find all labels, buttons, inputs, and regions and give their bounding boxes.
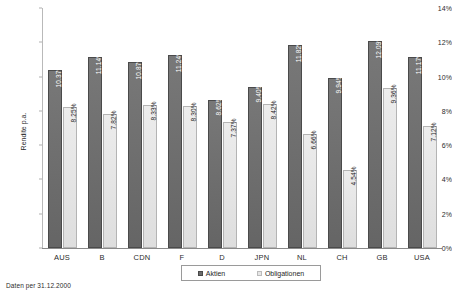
bar-value-label: 11.24% bbox=[175, 50, 182, 72]
bar-obligationen: 7.82% bbox=[103, 114, 117, 248]
legend-swatch-aktien-icon bbox=[198, 271, 203, 276]
x-axis-tick-label: CDN bbox=[122, 253, 162, 262]
bar-value-label: 7.82% bbox=[110, 110, 117, 129]
bar-group: 11.24%8.30% bbox=[168, 8, 197, 248]
bar-value-label: 10.37% bbox=[55, 65, 62, 88]
bar-value-label: 9.94% bbox=[335, 74, 342, 93]
bar-group: 10.87%8.33% bbox=[128, 8, 157, 248]
x-axis-tick-label: GB bbox=[362, 253, 402, 262]
x-axis-tick-label: CH bbox=[322, 253, 362, 262]
legend-label-obligationen: Obligationen bbox=[265, 270, 304, 277]
bar-group: 9.40%8.42% bbox=[248, 8, 277, 248]
y-axis-title: Rendite p.a. bbox=[20, 97, 27, 167]
bar-obligationen: 6.66% bbox=[303, 134, 317, 248]
bar-group: 11.17%7.12% bbox=[408, 8, 437, 248]
chart-container: 14%12%10%8%6%4%2%0% Rendite p.a. 10.37%8… bbox=[0, 0, 452, 298]
bar-aktien: 11.82% bbox=[288, 45, 302, 248]
legend-label-aktien: Aktien bbox=[206, 270, 225, 277]
bar-value-label: 7.37% bbox=[230, 118, 237, 137]
legend-swatch-obligationen-icon bbox=[257, 271, 262, 276]
x-axis-tick-label: AUS bbox=[42, 253, 82, 262]
bar-obligationen: 7.12% bbox=[423, 126, 437, 248]
bar-group: 10.37%8.25% bbox=[48, 8, 77, 248]
x-axis-tick-label: USA bbox=[402, 253, 442, 262]
bar-value-label: 9.36% bbox=[390, 84, 397, 103]
x-axis-tick-label: D bbox=[202, 253, 242, 262]
bar-aktien: 10.87% bbox=[128, 62, 142, 248]
bar-obligationen: 9.36% bbox=[383, 88, 397, 248]
legend-item-obligationen: Obligationen bbox=[257, 270, 304, 277]
legend-item-aktien: Aktien bbox=[198, 270, 225, 277]
x-axis-tick-label: B bbox=[82, 253, 122, 262]
bar-value-label: 6.66% bbox=[310, 130, 317, 149]
bar-value-label: 10.87% bbox=[135, 56, 142, 79]
bar-value-label: 8.30% bbox=[190, 102, 197, 121]
footnote: Daten per 31.12.2000 bbox=[6, 282, 71, 289]
bar-aktien: 11.14% bbox=[88, 57, 102, 248]
bar-aktien: 9.40% bbox=[248, 87, 262, 248]
x-axis-tick-label: NL bbox=[282, 253, 322, 262]
bar-group: 9.94%4.54% bbox=[328, 8, 357, 248]
bar-aktien: 9.94% bbox=[328, 78, 342, 248]
bar-obligationen: 8.30% bbox=[183, 106, 197, 248]
bar-value-label: 11.82% bbox=[295, 40, 302, 62]
bar-aktien: 11.17% bbox=[408, 57, 422, 248]
bar-group: 12.09%9.36% bbox=[368, 8, 397, 248]
bar-value-label: 9.40% bbox=[255, 83, 262, 102]
bar-group: 8.62%7.37% bbox=[208, 8, 237, 248]
bar-aktien: 11.24% bbox=[168, 55, 182, 248]
bar-obligationen: 8.25% bbox=[63, 107, 77, 248]
bar-aktien: 8.62% bbox=[208, 100, 222, 248]
bar-value-label: 4.54% bbox=[350, 167, 357, 186]
bar-obligationen: 7.37% bbox=[223, 122, 237, 248]
bar-value-label: 7.12% bbox=[430, 122, 437, 141]
bar-group: 11.14%7.82% bbox=[88, 8, 117, 248]
x-axis-tick-label: F bbox=[162, 253, 202, 262]
bar-aktien: 12.09% bbox=[368, 41, 382, 248]
plot-area: 10.37%8.25%11.14%7.82%10.87%8.33%11.24%8… bbox=[42, 8, 442, 248]
bar-group: 11.82%6.66% bbox=[288, 8, 317, 248]
bar-obligationen: 8.33% bbox=[143, 105, 157, 248]
bar-value-label: 8.33% bbox=[150, 102, 157, 121]
bar-obligationen: 8.42% bbox=[263, 104, 277, 248]
bar-value-label: 8.25% bbox=[70, 103, 77, 122]
bar-value-label: 11.14% bbox=[95, 52, 102, 74]
x-axis-line bbox=[42, 248, 442, 249]
chart-legend: Aktien Obligationen bbox=[181, 265, 321, 281]
bar-value-label: 11.17% bbox=[415, 51, 422, 73]
bar-value-label: 8.42% bbox=[270, 100, 277, 119]
bar-aktien: 10.37% bbox=[48, 70, 62, 248]
bar-value-label: 12.09% bbox=[375, 35, 382, 58]
x-axis-tick-label: JPN bbox=[242, 253, 282, 262]
bar-obligationen: 4.54% bbox=[343, 170, 357, 248]
bar-value-label: 8.62% bbox=[215, 97, 222, 116]
